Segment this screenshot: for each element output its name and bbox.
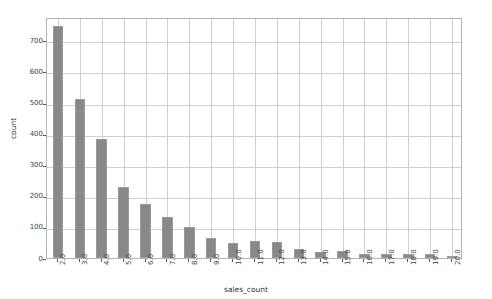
x-axis-tick-label: 16.0 — [367, 249, 374, 265]
x-axis-tick-mark — [276, 259, 277, 262]
bars-group — [47, 19, 461, 258]
y-axis-tick-label: 700 — [30, 38, 43, 45]
x-axis-tick-mark — [166, 259, 167, 262]
x-axis-tick-label: 4.0 — [104, 254, 111, 265]
bar — [162, 217, 173, 258]
x-axis-tick-label: 13.0 — [301, 249, 308, 265]
x-axis-tick-label: 11.0 — [258, 249, 265, 265]
x-axis-tick-mark — [57, 259, 58, 262]
x-axis-tick-label: 6.0 — [148, 254, 155, 265]
x-axis-tick-label: 15.0 — [345, 249, 352, 265]
x-axis-tick-mark — [385, 259, 386, 262]
x-axis-tick-label: 3.0 — [82, 254, 89, 265]
y-axis-tick-label: 600 — [30, 69, 43, 76]
x-axis-tick-mark — [101, 259, 102, 262]
x-axis-tick-label: 9.0 — [214, 254, 221, 265]
bar — [96, 139, 107, 258]
y-axis-tick-mark — [43, 259, 46, 260]
bar — [118, 187, 129, 258]
x-axis-tick-mark — [188, 259, 189, 262]
x-axis-tick-mark — [363, 259, 364, 262]
x-axis-tick-mark — [320, 259, 321, 262]
x-axis-tick-label: 10.0 — [236, 249, 243, 265]
x-axis-tick-label: 20.0 — [455, 249, 462, 265]
y-axis-tick-label: 400 — [30, 131, 43, 138]
y-axis-tick-label: 500 — [30, 100, 43, 107]
x-axis-tick-label: 14.0 — [323, 249, 330, 265]
x-axis-tick-label: 7.0 — [170, 254, 177, 265]
x-axis-tick-mark — [79, 259, 80, 262]
bar — [140, 204, 151, 258]
y-axis-tick-label: 200 — [30, 193, 43, 200]
x-axis-tick-mark — [298, 259, 299, 262]
x-axis-tick-label: 8.0 — [192, 254, 199, 265]
bar — [75, 99, 86, 258]
y-axis-tick-label: 0 — [39, 256, 43, 263]
bar — [53, 26, 64, 258]
x-axis-tick-mark — [342, 259, 343, 262]
x-axis-tick-mark — [407, 259, 408, 262]
x-axis-tick-label: 17.0 — [389, 249, 396, 265]
x-axis-tick-mark — [145, 259, 146, 262]
x-axis-tick-mark — [254, 259, 255, 262]
x-axis-tick-label: 12.0 — [279, 249, 286, 265]
x-axis-tick-mark — [429, 259, 430, 262]
x-axis-tick-label: 19.0 — [433, 249, 440, 265]
x-axis-tick-label: 5.0 — [126, 254, 133, 265]
x-axis-tick-mark — [451, 259, 452, 262]
x-axis-tick-label: 2.0 — [60, 254, 67, 265]
x-axis-tick-mark — [232, 259, 233, 262]
y-axis-title: count — [10, 118, 18, 139]
x-axis-tick-mark — [210, 259, 211, 262]
x-axis-title: sales_count — [0, 286, 492, 294]
y-axis-tick-label: 100 — [30, 224, 43, 231]
histogram-figure: count 0100200300400500600700 2.03.04.05.… — [0, 0, 492, 299]
y-axis-tick-label: 300 — [30, 162, 43, 169]
x-axis-tick-label: 18.0 — [411, 249, 418, 265]
plot-area — [46, 18, 462, 259]
x-axis-tick-mark — [123, 259, 124, 262]
